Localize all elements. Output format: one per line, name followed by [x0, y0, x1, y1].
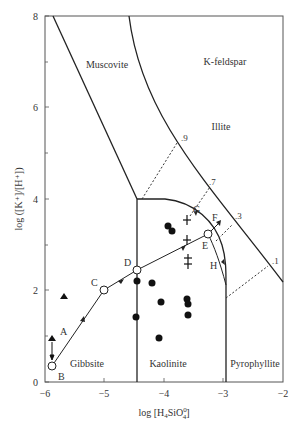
x-tick-minus6: −6 [40, 388, 51, 399]
node-b [48, 362, 56, 370]
field-label-pyrophyllite: Pyrophyllite [230, 358, 280, 369]
arrow-icon [80, 316, 85, 322]
filled-circle-points [133, 223, 192, 342]
contour-0.9 [142, 143, 177, 199]
node-c [100, 286, 108, 294]
y-tick-8: 8 [33, 11, 38, 22]
node-e [204, 230, 212, 238]
field-label-gibbsite: Gibbsite [70, 358, 104, 369]
stability-diagram: 0 2 4 6 8 −6 −5 −4 −3 −2 log [H4SiO04] l… [0, 0, 298, 432]
point-label-h: H [210, 260, 217, 271]
contour-label-0.3: .3 [235, 211, 242, 221]
field-label-kfeldspar: K-feldspar [204, 56, 247, 67]
node-d [133, 266, 141, 274]
field-label-kaolinite: Kaolinite [149, 358, 187, 369]
cross-points [183, 215, 192, 269]
y-tick-6: 6 [33, 102, 38, 113]
contour-0.3 [216, 224, 233, 241]
double-arrow-icon [50, 342, 54, 360]
field-label-illite: Illite [212, 121, 231, 132]
arrow-icon [221, 259, 225, 265]
point-label-f: F [212, 212, 218, 223]
field-label-muscovite: Muscovite [86, 59, 129, 70]
x-tick-minus4: −4 [159, 388, 170, 399]
x-tick-minus3: −3 [218, 388, 229, 399]
y-tick-4: 4 [33, 194, 38, 205]
point-label-a: A [60, 326, 68, 337]
illite-contours [142, 143, 268, 298]
phase-boundaries [52, 16, 283, 382]
muscovite-kaolinite-boundary [53, 16, 137, 199]
y-axis-ticks [45, 16, 49, 382]
path-arrows [80, 210, 225, 322]
x-axis-title: log [H4SiO04] [138, 406, 189, 421]
point-label-g: G [193, 204, 200, 215]
point-label-c: C [91, 277, 98, 288]
x-tick-minus2: −2 [278, 388, 289, 399]
reaction-path [52, 224, 218, 366]
y-axis-title: log ([K⁺]/[H⁺]) [13, 167, 25, 230]
x-axis-ticks [104, 378, 223, 382]
point-label-d: D [124, 257, 131, 268]
contour-0.1 [226, 266, 268, 298]
contour-label-0.1: .1 [272, 256, 279, 266]
contour-label-0.9: .9 [181, 133, 188, 143]
y-tick-0: 0 [33, 377, 38, 388]
point-label-e: E [202, 240, 208, 251]
contour-label-0.7: .7 [209, 177, 216, 187]
x-tick-minus5: −5 [99, 388, 110, 399]
point-label-b: B [58, 371, 65, 382]
kaolinite-illite-boundary [137, 199, 226, 382]
y-tick-2: 2 [33, 285, 38, 296]
